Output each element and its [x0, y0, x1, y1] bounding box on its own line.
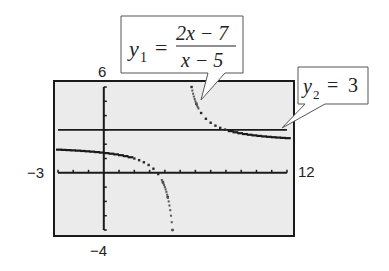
- y1-denominator: x − 5: [180, 49, 223, 71]
- y2-label-var: y: [301, 75, 312, 98]
- ymax-label: 6: [98, 63, 106, 80]
- y2-rhs: 3: [348, 74, 358, 96]
- y2-label-sub: 2: [313, 87, 320, 102]
- y1-label-sub: 1: [140, 50, 147, 65]
- ymin-label: −4: [90, 242, 107, 259]
- y2-equals: =: [327, 74, 338, 96]
- graph-figure: 6 −4 −3 12 y 1 = 2x − 7 x − 5 y 2 = 3: [0, 0, 389, 271]
- y1-label-var: y: [127, 36, 139, 61]
- graph-window: [54, 81, 294, 236]
- y1-numerator: 2x − 7: [176, 22, 229, 44]
- xmin-label: −3: [27, 164, 44, 181]
- y1-equals: =: [155, 35, 167, 60]
- xmax-label: 12: [298, 163, 315, 180]
